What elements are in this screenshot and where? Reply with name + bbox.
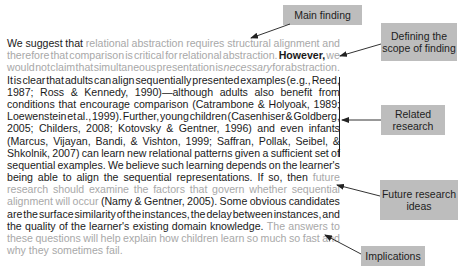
future-arrow	[337, 185, 380, 196]
annotation-arrows	[0, 0, 464, 274]
main-finding-arrow	[251, 24, 290, 38]
implications-arrow	[325, 235, 361, 254]
scope-arrow	[340, 44, 381, 56]
